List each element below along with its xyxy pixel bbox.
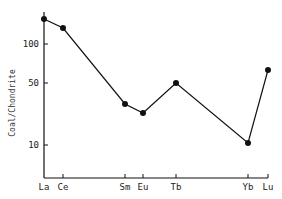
y-axis-title: Coal/Chondrite [8,69,17,137]
data-series [41,16,271,146]
x-tick-label-yb: Yb [243,182,254,192]
x-tick-label-tb: Tb [171,182,182,192]
data-point-tb [173,80,179,86]
y-tick-label: 50 [28,78,39,88]
x-tick-label-sm: Sm [120,182,131,192]
y-tick-label: 100 [23,39,39,49]
data-point-la [41,16,47,22]
data-point-yb [245,140,251,146]
y-tick-label: 10 [28,140,39,150]
x-tick-label-la: La [39,182,50,192]
x-tick-label-eu: Eu [138,182,149,192]
data-point-eu [140,110,146,116]
x-tick-label-lu: Lu [263,182,274,192]
ree-chondrite-chart: 1050100 LaCeSmEuTbYbLu Coal/Chondrite [0,0,282,199]
x-tick-label-ce: Ce [58,182,69,192]
series-line [44,19,268,143]
data-point-lu [265,67,271,73]
x-ticks: LaCeSmEuTbYbLu [39,174,274,192]
data-point-sm [122,101,128,107]
data-point-ce [60,25,66,31]
axes [44,12,268,178]
